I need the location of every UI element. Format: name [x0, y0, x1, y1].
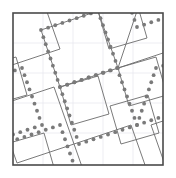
lattice-dot [106, 38, 110, 42]
lattice-dot [142, 23, 146, 27]
lattice-dot [56, 78, 60, 82]
lattice-dot [147, 87, 151, 91]
lattice-dot [20, 66, 24, 70]
lattice-dot [30, 133, 34, 137]
lattice-dot [60, 21, 64, 25]
geometry-figure [0, 0, 176, 178]
lattice-dot [68, 114, 72, 118]
lattice-dot [135, 123, 139, 127]
lattice-dot [70, 121, 74, 125]
lattice-dot [44, 128, 48, 132]
lattice-dot [22, 135, 26, 139]
lattice-dot [142, 102, 146, 106]
lattice-dot [118, 73, 122, 77]
lattice-dot [133, 18, 137, 22]
lattice-dot [30, 95, 34, 99]
lattice-dot [15, 137, 19, 141]
lattice-dot [18, 130, 22, 134]
lattice-dot [137, 116, 141, 120]
lattice-dot [120, 80, 124, 84]
lattice-dot [51, 125, 55, 129]
lattice-dot [84, 140, 88, 144]
lattice-dot [80, 78, 84, 82]
lattice-dot [128, 102, 132, 106]
lattice-dot [58, 123, 62, 127]
lattice-dot [133, 116, 137, 120]
lattice-dot [23, 73, 27, 77]
lattice-dot [41, 35, 45, 39]
lattice-dot [87, 76, 91, 80]
lattice-dot [33, 102, 37, 106]
lattice-dot [75, 135, 79, 139]
lattice-dot [35, 109, 39, 113]
lattice-dot [109, 45, 113, 49]
lattice-dot [65, 83, 69, 87]
lattice-dot [82, 14, 86, 18]
lattice-dot [130, 109, 134, 113]
lattice-dot [53, 23, 57, 27]
lattice-dot [25, 80, 29, 84]
lattice-dot [154, 66, 158, 70]
lattice-dot [44, 42, 48, 46]
lattice-dot [58, 85, 62, 89]
lattice-dot [65, 106, 69, 110]
lattice-dot [142, 121, 146, 125]
lattice-dot [145, 95, 149, 99]
lattice-dot [63, 99, 67, 103]
lattice-dot [114, 59, 118, 63]
lattice-dot [92, 137, 96, 141]
lattice-dot [101, 23, 105, 27]
lattice-dot [94, 73, 98, 77]
lattice-dot [104, 30, 108, 34]
lattice-dot [60, 92, 64, 96]
lattice-dot [99, 135, 103, 139]
lattice-dot [123, 87, 127, 91]
lattice-dot [39, 28, 43, 32]
lattice-dot [61, 130, 65, 134]
lattice-dot [99, 16, 103, 20]
lattice-dot [37, 130, 41, 134]
lattice-dot [26, 128, 30, 132]
lattice-dot [149, 118, 153, 122]
lattice-dot [149, 80, 153, 84]
lattice-dot [113, 130, 117, 134]
lattice-dot [75, 16, 79, 20]
lattice-dot [38, 116, 42, 120]
lattice-dot [71, 159, 75, 163]
lattice-dot [68, 152, 72, 156]
lattice-dot [106, 133, 110, 137]
lattice-dot [68, 19, 72, 23]
lattice-dot [125, 95, 129, 99]
lattice-dot [152, 73, 156, 77]
lattice-dot [72, 128, 76, 132]
lattice-dot [49, 57, 53, 61]
lattice-dot [135, 25, 139, 29]
lattice-dot [156, 116, 160, 120]
lattice-dot [109, 68, 113, 72]
lattice-dot [53, 71, 57, 75]
lattice-dot [102, 71, 106, 75]
lattice-dot [140, 109, 144, 113]
lattice-dot [149, 20, 153, 24]
lattice-dot [156, 18, 160, 22]
lattice-dot [77, 142, 81, 146]
lattice-dot [111, 52, 115, 56]
lattice-dot [128, 125, 132, 129]
figure-container [0, 0, 176, 178]
lattice-dot [73, 80, 77, 84]
lattice-dot [46, 49, 50, 53]
lattice-dot [46, 26, 50, 30]
lattice-dot [28, 87, 32, 91]
lattice-dot [66, 144, 70, 148]
lattice-dot [121, 128, 125, 132]
lattice-dot [63, 137, 67, 141]
lattice-dot [51, 64, 55, 68]
lattice-dot [116, 66, 120, 70]
lattice-dot [33, 125, 37, 129]
lattice-dot [40, 123, 44, 127]
